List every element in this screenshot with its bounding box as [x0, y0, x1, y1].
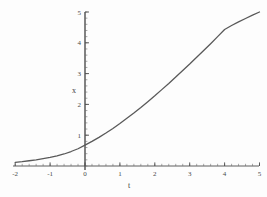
y-tick-label: 4: [78, 39, 82, 47]
axes-group: [13, 12, 259, 170]
data-curve-x-of-t: [15, 12, 259, 162]
x-tick-label: 3: [188, 170, 192, 178]
x-tick-label: 0: [83, 170, 87, 178]
x-tick-label: 4: [223, 170, 227, 178]
x-tick-label: -2: [12, 170, 18, 178]
plot-canvas: -2-1012345 12345 t x: [0, 0, 267, 197]
x-axis-major-ticks: [15, 162, 259, 166]
y-axis-tick-labels: 12345: [78, 9, 82, 140]
x-tick-label: 2: [153, 170, 157, 178]
y-tick-label: 1: [78, 132, 82, 140]
y-tick-label: 3: [78, 70, 82, 78]
y-tick-label: 5: [78, 9, 82, 17]
x-tick-label: 5: [258, 170, 262, 178]
x-axis-title: t: [128, 181, 131, 190]
plot-figure: -2-1012345 12345 t x: [0, 0, 267, 197]
y-tick-label: 2: [78, 101, 82, 109]
y-axis-title: x: [72, 86, 76, 95]
x-axis-tick-labels: -2-1012345: [12, 170, 261, 178]
x-tick-label: -1: [47, 170, 53, 178]
x-tick-label: 1: [118, 170, 122, 178]
